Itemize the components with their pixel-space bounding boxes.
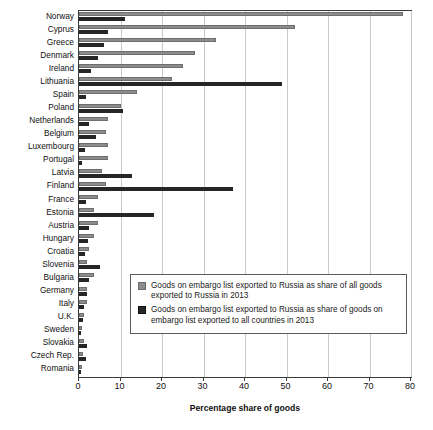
bar-row <box>79 76 411 89</box>
bar-light <box>79 221 98 225</box>
bar-light <box>79 365 82 369</box>
category-label: Poland <box>0 103 74 112</box>
bar-row <box>79 351 411 364</box>
bar-dark <box>79 213 154 217</box>
x-tick-label: 80 <box>405 381 415 391</box>
x-tick-label: 0 <box>75 381 80 391</box>
bar-light <box>79 195 98 199</box>
category-label: Greece <box>0 38 74 47</box>
legend-swatch-dark-icon <box>138 306 146 314</box>
category-label: Ireland <box>0 64 74 73</box>
bar-light <box>79 64 183 68</box>
bar-light <box>79 104 121 108</box>
category-label: Belgium <box>0 129 74 138</box>
bar-dark <box>79 278 89 282</box>
category-label: U.K. <box>0 312 74 321</box>
bar-dark <box>79 252 85 256</box>
bar-row <box>79 103 411 116</box>
legend-label-dark: Goods on embargo list exported to Russia… <box>151 305 399 325</box>
category-label: Netherlands <box>0 116 74 125</box>
bar-row <box>79 194 411 207</box>
x-axis-ticks: 01020304050607080 <box>0 378 433 394</box>
bar-dark <box>79 69 91 73</box>
bar-dark <box>79 200 86 204</box>
bar-dark <box>79 122 89 126</box>
bar-light <box>79 234 94 238</box>
x-axis-label: Percentage share of goods <box>78 403 412 413</box>
legend-item-dark: Goods on embargo list exported to Russia… <box>138 305 399 325</box>
bar-light <box>79 326 82 330</box>
bar-dark <box>79 226 89 230</box>
bar-row <box>79 168 411 181</box>
bar-row <box>79 181 411 194</box>
bar-dark <box>79 135 96 139</box>
bar-chart: NorwayCyprusGreeceDenmarkIrelandLithuani… <box>0 0 433 430</box>
category-label: Bulgaria <box>0 273 74 282</box>
category-label: Italy <box>0 299 74 308</box>
bar-row <box>79 233 411 246</box>
category-label: Croatia <box>0 247 74 256</box>
bar-dark <box>79 95 86 99</box>
x-tick-label: 10 <box>114 381 124 391</box>
bar-light <box>79 25 295 29</box>
chart-legend: Goods on embargo list exported to Russia… <box>130 274 407 334</box>
bar-light <box>79 182 106 186</box>
category-label: Germany <box>0 286 74 295</box>
bar-light <box>79 38 216 42</box>
bar-dark <box>79 318 83 322</box>
bar-light <box>79 143 108 147</box>
bar-dark <box>79 109 123 113</box>
bar-light <box>79 300 87 304</box>
bar-dark <box>79 292 87 296</box>
bar-dark <box>79 43 104 47</box>
x-tick-label: 70 <box>363 381 373 391</box>
bar-row <box>79 142 411 155</box>
legend-item-light: Goods on embargo list exported to Russia… <box>138 281 399 301</box>
x-tick-label: 60 <box>322 381 332 391</box>
bar-row <box>79 207 411 220</box>
bar-dark <box>79 305 84 309</box>
category-label: Denmark <box>0 51 74 60</box>
bar-row <box>79 364 411 377</box>
bar-dark <box>79 239 88 243</box>
bar-light <box>79 12 403 16</box>
category-label: Slovenia <box>0 260 74 269</box>
legend-swatch-light-icon <box>138 282 146 290</box>
x-tick-label: 30 <box>197 381 207 391</box>
x-tick-label: 20 <box>156 381 166 391</box>
bar-dark <box>79 265 100 269</box>
bar-row <box>79 11 411 24</box>
category-label: Hungary <box>0 234 74 243</box>
bar-dark <box>79 174 132 178</box>
bar-dark <box>79 161 82 165</box>
bar-row <box>79 116 411 129</box>
category-label: Spain <box>0 90 74 99</box>
bar-dark <box>79 187 233 191</box>
bar-light <box>79 156 108 160</box>
category-label: Sweden <box>0 325 74 334</box>
bar-light <box>79 339 84 343</box>
x-tick-label: 50 <box>280 381 290 391</box>
bar-light <box>79 260 87 264</box>
bar-dark <box>79 331 81 335</box>
category-label: France <box>0 195 74 204</box>
bar-row <box>79 220 411 233</box>
bar-dark <box>79 344 87 348</box>
bar-light <box>79 352 83 356</box>
category-label: Luxembourg <box>0 142 74 151</box>
bar-light <box>79 287 87 291</box>
bar-row <box>79 129 411 142</box>
category-label: Norway <box>0 12 74 21</box>
bar-row <box>79 155 411 168</box>
category-label: Finland <box>0 181 74 190</box>
category-label: Austria <box>0 221 74 230</box>
category-label: Romania <box>0 364 74 373</box>
bar-light <box>79 169 102 173</box>
bar-dark <box>79 30 108 34</box>
bar-row <box>79 63 411 76</box>
bar-dark <box>79 357 86 361</box>
bar-dark <box>79 56 98 60</box>
bar-light <box>79 90 137 94</box>
category-label: Slovakia <box>0 338 74 347</box>
bar-row <box>79 89 411 102</box>
